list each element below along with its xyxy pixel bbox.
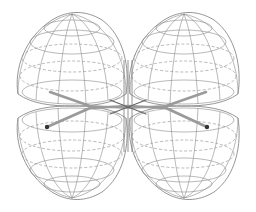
molecule-stick-model — [47, 92, 207, 127]
lobe-top-left — [17, 13, 127, 107]
atom-right — [205, 125, 209, 129]
orbital-wireframe-diagram — [0, 0, 256, 212]
lobe-bottom-right — [129, 106, 239, 200]
lobe-top-right — [129, 13, 239, 107]
atom-left — [45, 125, 49, 129]
lobe-bottom-left — [17, 106, 127, 200]
